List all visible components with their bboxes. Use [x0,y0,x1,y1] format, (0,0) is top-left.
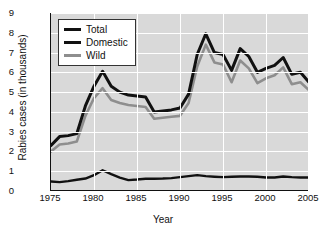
x-tick-1995: 1995 [202,193,242,203]
legend-label-total: Total [86,24,107,35]
rabies-cases-line-chart: 0123456789 1975198019851990199520002005 … [0,0,326,236]
y-tick-5: 5 [0,87,14,97]
y-tick-0: 0 [0,186,14,196]
legend-swatch-domestic-icon [64,41,81,44]
y-tick-8: 8 [0,28,14,38]
y-tick-3: 3 [0,127,14,137]
x-tick-2005: 2005 [288,193,326,203]
legend-swatch-total-icon [64,28,81,31]
gridline-vertical [223,13,224,190]
x-tick-1980: 1980 [73,193,113,203]
legend-item-domestic: Domestic [64,36,128,49]
y-tick-2: 2 [0,146,14,156]
legend-item-total: Total [64,23,128,36]
gridline-vertical [137,13,138,190]
x-tick-1975: 1975 [30,193,70,203]
x-tick-1990: 1990 [159,193,199,203]
gridline-vertical [180,13,181,190]
y-tick-4: 4 [0,107,14,117]
x-axis-label: Year [0,214,326,225]
gridline-vertical [266,13,267,190]
y-axis-label: Rabies cases (in thousands) [17,8,28,188]
legend-label-wild: Wild [86,50,105,61]
x-tick-2000: 2000 [245,193,285,203]
y-tick-9: 9 [0,8,14,18]
y-tick-7: 7 [0,48,14,58]
y-tick-6: 6 [0,67,14,77]
legend-item-wild: Wild [64,49,128,62]
x-tick-1985: 1985 [116,193,156,203]
y-tick-1: 1 [0,166,14,176]
legend-swatch-wild-icon [64,54,81,57]
legend-label-domestic: Domestic [86,37,128,48]
chart-legend: TotalDomesticWild [58,19,136,66]
